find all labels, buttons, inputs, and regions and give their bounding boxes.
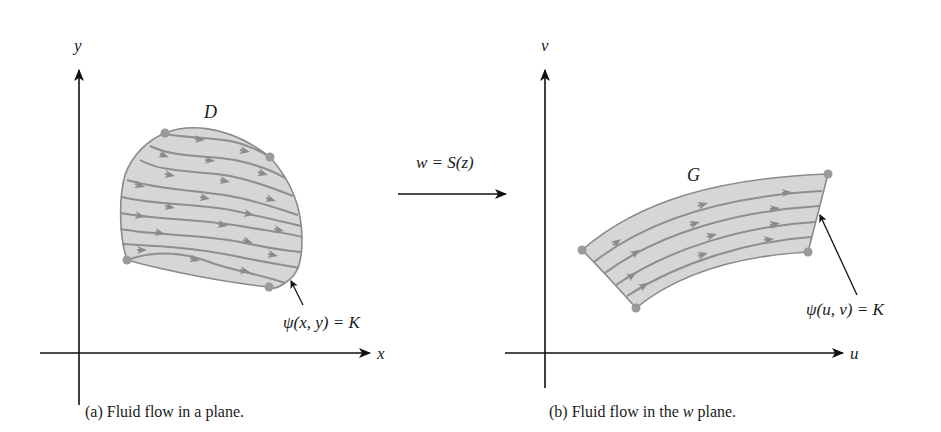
streamline-function-label-b: ψ(u, v) = K <box>806 300 885 319</box>
mapping: w = S(z) <box>398 153 506 194</box>
v-axis-label: v <box>541 36 549 55</box>
caption-a: (a) Fluid flow in a plane. <box>85 403 244 421</box>
region-g-label: G <box>687 165 700 185</box>
caption-b-suffix: plane. <box>693 403 736 421</box>
fluid-flow-figure: y x <box>0 0 941 432</box>
u-axis-label: u <box>850 344 859 363</box>
x-axis-label: x <box>376 344 385 363</box>
corner-point <box>265 283 274 292</box>
region-d-label: D <box>203 102 217 122</box>
mapping-label: w = S(z) <box>416 153 474 172</box>
panel-a-z-plane: y x <box>40 36 385 421</box>
caption-b: (b) Fluid flow in the w plane. <box>549 403 736 421</box>
corner-point <box>632 304 641 313</box>
streamline-pointer-arrow <box>291 281 303 305</box>
corner-point <box>161 129 170 138</box>
corner-point <box>123 256 132 265</box>
corner-point <box>578 246 587 255</box>
panel-b-w-plane: v u G ψ(u, v) = K <box>505 36 885 421</box>
caption-b-variable: w <box>683 403 694 420</box>
streamline-function-label-a: ψ(x, y) = K <box>283 313 361 332</box>
corner-point <box>804 248 813 257</box>
streamline-pointer-arrow <box>820 215 857 295</box>
corner-point <box>824 170 833 179</box>
caption-b-prefix: (b) Fluid flow in the <box>549 403 683 421</box>
corner-point <box>266 153 275 162</box>
y-axis-label: y <box>72 36 82 55</box>
